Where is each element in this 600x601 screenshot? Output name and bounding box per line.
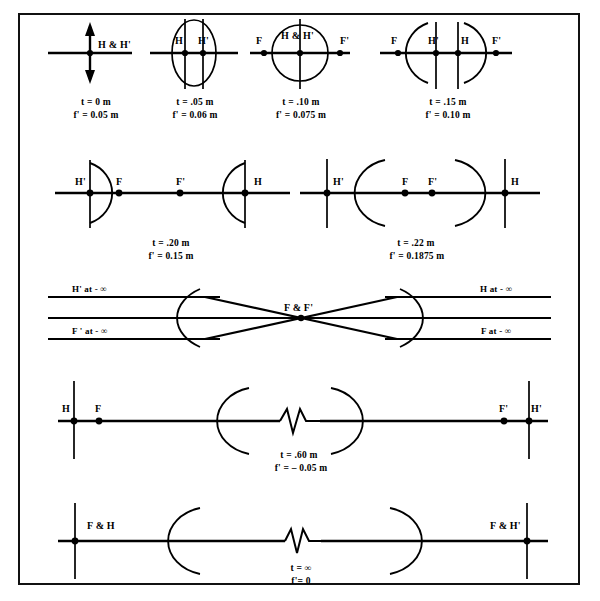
- caption-t-case9: t = ∞: [275, 564, 327, 574]
- caption-f-case5: f' = 0.15 m: [135, 252, 207, 262]
- label-f-case4: F: [391, 36, 397, 46]
- caption-f-case2: f' = 0.06 m: [159, 111, 231, 121]
- caption-f-case8: f' = – 0.05 m: [261, 464, 341, 474]
- caption-t-case2: t = .05 m: [164, 98, 226, 108]
- caption-f-case3: f' = 0.075 m: [263, 111, 339, 121]
- case-5-drawing: [55, 160, 290, 228]
- label-h-and-hprime-case3: H & H': [281, 31, 314, 41]
- label-f-case6: F: [402, 177, 408, 187]
- caption-t-case6: t = .22 m: [385, 239, 447, 249]
- case-6-drawing: [300, 159, 540, 228]
- label-hprime-case6: H': [333, 177, 344, 187]
- label-hprime-at-neg-infinity: H' at - ∞: [72, 285, 107, 294]
- caption-t-case8: t = .60 m: [268, 451, 330, 461]
- case-7-drawing: [48, 289, 551, 347]
- label-fprime-case3: F': [340, 36, 349, 46]
- case-1-drawing: [48, 22, 132, 84]
- label-h-case8: H: [62, 404, 70, 414]
- label-h-case6: H: [511, 177, 519, 187]
- caption-t-case5: t = .20 m: [140, 239, 202, 249]
- label-h-and-hprime-case1: H & H': [98, 40, 131, 50]
- caption-f-case6: f' = 0.1875 m: [377, 252, 457, 262]
- label-fprime-at-neg-infinity: F ' at - ∞: [72, 327, 108, 336]
- case-4-drawing: [380, 22, 512, 89]
- caption-f-case4: f' = 0.10 m: [411, 111, 485, 121]
- label-f-case8: F: [95, 404, 101, 414]
- label-f-case3: F: [256, 36, 262, 46]
- label-fprime-case6: F': [428, 177, 437, 187]
- label-h-case4: H: [461, 36, 469, 46]
- label-f-and-fprime: F & F': [284, 303, 313, 313]
- label-hprime-case8: H': [531, 404, 542, 414]
- label-f-at-neg-infinity: F at - ∞: [481, 327, 511, 336]
- caption-t-case3: t = .10 m: [270, 98, 332, 108]
- optics-figure: H & H' t = 0 m f' = 0.05 m H H' t = .05 …: [0, 0, 600, 601]
- label-hprime-case5: H': [75, 177, 86, 187]
- label-hprime-case2: H': [198, 36, 209, 46]
- label-h-at-neg-infinity: H at - ∞: [480, 285, 512, 294]
- label-h-case2: H: [175, 36, 183, 46]
- label-f-and-hprime-case9: F & H': [490, 521, 521, 531]
- figure-drawing: [0, 0, 600, 601]
- case-8-drawing: [58, 381, 548, 459]
- caption-t-case1: t = 0 m: [66, 98, 126, 108]
- label-fprime-case8: F': [499, 404, 508, 414]
- caption-t-case4: t = .15 m: [417, 98, 479, 108]
- label-f-and-h-case9: F & H: [87, 521, 115, 531]
- label-h-case5: H: [254, 177, 262, 187]
- case-2-drawing: [150, 19, 238, 89]
- label-fprime-case5: F': [176, 177, 185, 187]
- label-fprime-case4: F': [492, 36, 501, 46]
- caption-f-case1: f' = 0.05 m: [60, 111, 132, 121]
- caption-f-case9: f'= 0: [275, 577, 327, 587]
- label-hprime-case4: H': [428, 36, 439, 46]
- label-f-case5: F: [116, 177, 122, 187]
